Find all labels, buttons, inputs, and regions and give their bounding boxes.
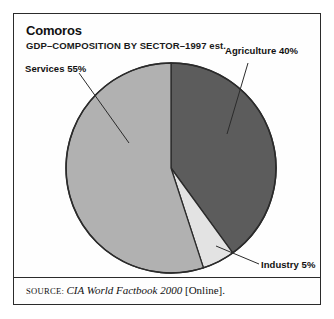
source-suffix: [Online]. [182, 284, 225, 296]
pie-label-industry: Industry 5% [261, 259, 315, 270]
source-divider [14, 277, 320, 278]
source-publication: CIA World Factbook 2000 [66, 284, 182, 296]
pie-label-services: Services 55% [25, 63, 86, 74]
figure-root: Comoros GDP–COMPOSITION BY SECTOR–1997 e… [0, 0, 334, 319]
pie-label-agriculture: Agriculture 40% [225, 45, 298, 56]
pie-slices [66, 63, 276, 273]
leader-line-services [79, 73, 129, 143]
source-label: SOURCE: [26, 286, 66, 296]
leader-lines [79, 63, 259, 264]
figure-frame: Comoros GDP–COMPOSITION BY SECTOR–1997 e… [13, 13, 321, 305]
figure-subtitle: GDP–COMPOSITION BY SECTOR–1997 est. [26, 40, 226, 51]
leader-line-industry [216, 246, 259, 264]
page-title: Comoros [26, 23, 82, 38]
pie-slice-agriculture[interactable] [171, 63, 276, 253]
pie-outline [66, 63, 276, 273]
pie-slice-industry[interactable] [171, 168, 233, 268]
pie-slice-services[interactable] [66, 63, 203, 273]
source-note: SOURCE: CIA World Factbook 2000 [Online]… [26, 284, 225, 296]
leader-line-agriculture [227, 63, 248, 134]
